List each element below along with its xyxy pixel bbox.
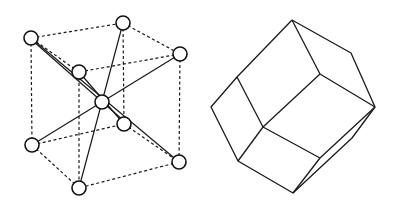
crystal-diagram xyxy=(0,0,398,208)
atom-corner-bottom-front xyxy=(72,181,86,195)
atom-corner-top-left-back xyxy=(24,31,38,45)
atoms xyxy=(24,16,187,195)
atom-corner-top-front xyxy=(72,65,86,79)
bcc-unit-cell xyxy=(24,16,187,195)
atom-corner-top-right xyxy=(173,47,187,61)
atom-corner-bottom-right xyxy=(172,155,186,169)
atom-corner-top-back xyxy=(116,16,130,30)
rhombic-dodecahedron xyxy=(211,20,375,193)
atom-corner-bottom-back xyxy=(117,117,131,131)
outline xyxy=(211,20,375,193)
atom-corner-bottom-left xyxy=(25,138,39,152)
atom-body-center xyxy=(95,95,109,109)
